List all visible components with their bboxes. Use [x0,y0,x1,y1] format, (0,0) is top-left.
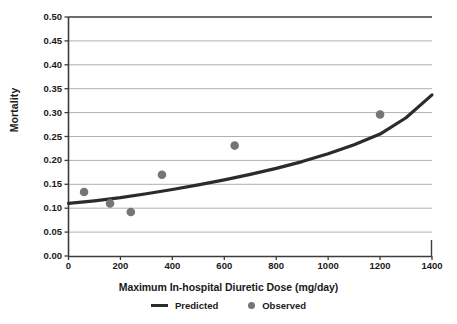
x-axis-title: Maximum In-hospital Diuretic Dose (mg/da… [0,281,457,293]
data-point [80,188,89,197]
chart-figure: Mortality 0.000.050.100.150.200.250.300.… [0,0,457,324]
axis-ticks [65,17,433,260]
legend-item-observed: Observed [248,300,306,311]
x-tick-label: 200 [96,261,144,271]
data-point [376,110,385,119]
x-tick-label: 800 [252,261,300,271]
data-point [106,199,115,208]
legend-item-predicted: Predicted [151,300,218,311]
x-tick-label: 400 [148,261,196,271]
x-tick-label: 600 [200,261,248,271]
x-tick-label: 0 [45,261,93,271]
x-tick-label: 1200 [356,261,404,271]
data-point [158,170,167,179]
x-axis-tick-labels: 0200400600800100012001400 [0,261,457,275]
data-point [230,141,239,150]
observed-points [80,110,385,216]
x-tick-label: 1400 [408,261,456,271]
legend-dot-swatch-icon [248,302,255,309]
data-point [127,208,136,217]
plot-area [0,0,457,324]
x-tick-label: 1000 [304,261,352,271]
chart-legend: Predicted Observed [0,300,457,311]
legend-label-observed: Observed [262,300,306,311]
legend-label-predicted: Predicted [175,300,218,311]
grid-lines [69,17,433,232]
legend-line-swatch-icon [151,304,168,307]
